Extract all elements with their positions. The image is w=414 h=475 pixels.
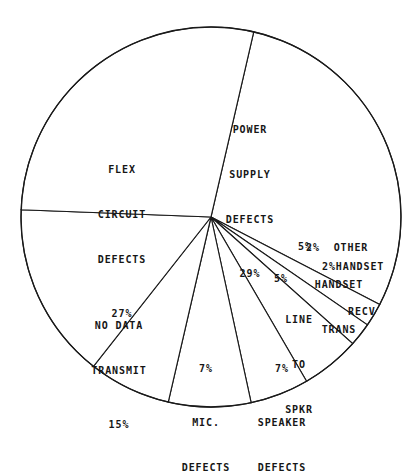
label-line: SPKR: [268, 402, 330, 417]
slice-label-no-data-transmit: NO DATA TRANSMIT 15%: [64, 288, 174, 462]
label-line: DEFECTS: [168, 460, 244, 475]
label-line: DEFECTS: [70, 252, 174, 267]
label-line: SUPPLY: [196, 167, 304, 182]
label-line: FLEX: [70, 162, 174, 177]
label-line: MIC.: [168, 415, 244, 430]
slice-percent-mic-defects: 7%: [168, 361, 244, 376]
label-line: 2% OTHER: [306, 240, 402, 255]
slice-label-mic-defects: 7% MIC. DEFECTS: [168, 331, 244, 475]
label-line: TRANSMIT: [64, 363, 174, 378]
label-line: DEFECTS: [240, 460, 324, 475]
slice-percent-no-data-transmit: 15%: [64, 417, 174, 432]
label-line: DEFECTS: [196, 212, 304, 227]
label-line: RECV: [322, 304, 414, 319]
label-line: CIRCUIT: [70, 207, 174, 222]
slice-label-other: 2% OTHER: [306, 210, 402, 285]
label-line: NO DATA: [64, 318, 174, 333]
label-line: POWER: [196, 122, 304, 137]
